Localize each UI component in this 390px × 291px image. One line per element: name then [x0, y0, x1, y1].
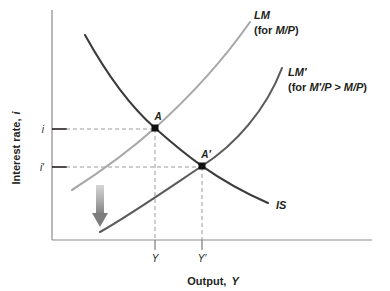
curve-sublabel-lm-prefix: (for	[254, 24, 275, 36]
x-tick-marks	[155, 240, 202, 250]
curve-lm	[72, 22, 250, 190]
point-A-label: A	[153, 111, 161, 122]
curve-sublabel-lmp-suffix: )	[363, 81, 367, 93]
curve-sublabel-lm-var: M/P	[275, 24, 295, 36]
x-tick-label-Y-prime: Y′	[198, 253, 208, 264]
point-A-prime-label: A′	[200, 149, 211, 160]
curve-label-lm-prime: LM′	[288, 66, 308, 78]
is-lm-figure: A A′ LM (for M/P) LM′ (for M′/P > M/P) I…	[0, 0, 390, 291]
x-axis-title: Output,Y	[187, 275, 240, 287]
curve-label-lm: LM	[254, 9, 271, 21]
y-axis-title-var: i	[10, 111, 22, 115]
y-axis-title: Interest rate,i	[10, 111, 22, 185]
curve-is	[85, 35, 268, 203]
curve-sublabel-lmp-var: M′/P > M/P	[309, 81, 364, 93]
downward-shift-arrow	[92, 185, 108, 227]
curve-sublabel-lm-prime: (for M′/P > M/P)	[288, 81, 367, 93]
curve-sublabel-lmp-prefix: (for	[288, 81, 309, 93]
curve-sublabel-lm-suffix: )	[295, 24, 299, 36]
curve-sublabel-lm: (for M/P)	[254, 24, 299, 36]
x-axis-title-text: Output,	[187, 275, 226, 287]
y-tick-marks	[52, 129, 67, 167]
point-A-prime-marker	[199, 163, 206, 170]
y-axis-title-text: Interest rate,	[10, 119, 22, 185]
x-tick-label-Y: Y	[152, 253, 160, 264]
x-axis-title-var: Y	[231, 275, 240, 287]
y-tick-label-i-prime: i′	[40, 162, 45, 173]
curve-label-is: IS	[276, 199, 287, 211]
figure-canvas: A A′ LM (for M/P) LM′ (for M′/P > M/P) I…	[0, 0, 390, 291]
point-A-marker	[152, 125, 159, 132]
y-tick-label-i: i	[42, 124, 45, 135]
